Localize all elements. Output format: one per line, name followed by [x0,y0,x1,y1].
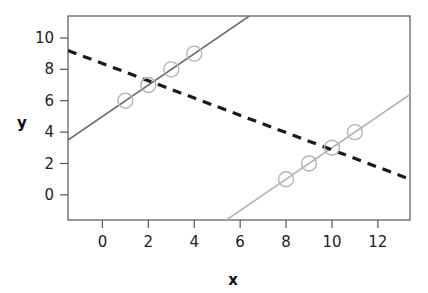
y-tick-label: 2 [44,155,54,173]
plot-frame [68,16,410,220]
y-axis-ticks [60,38,68,195]
light-fit-line [226,94,410,220]
dashed-trend-line [68,51,410,180]
x-tick-label: 2 [144,233,154,251]
x-tick-label: 12 [368,233,387,251]
x-tick-label: 0 [98,233,108,251]
y-tick-label: 0 [44,186,54,204]
plot-frame-rect [68,16,410,220]
data-series-layer [68,16,410,220]
x-axis-ticks [102,220,377,228]
x-axis-tick-labels: 024681012 [98,233,388,251]
scatter-plot-svg: 024681012 0246810 x y [0,0,428,293]
y-tick-label: 4 [44,123,54,141]
x-tick-label: 10 [322,233,341,251]
y-axis-tick-labels: 0246810 [35,29,54,204]
y-axis-title: y [17,114,27,132]
chart-container: 024681012 0246810 x y [0,0,428,293]
x-tick-label: 4 [189,233,199,251]
y-tick-label: 8 [44,60,54,78]
y-tick-label: 6 [44,92,54,110]
dark-fit-line [68,16,249,140]
y-tick-label: 10 [35,29,54,47]
x-tick-label: 6 [235,233,245,251]
x-axis-title: x [228,271,238,289]
x-tick-label: 8 [281,233,291,251]
